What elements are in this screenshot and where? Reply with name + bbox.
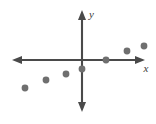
data-point (103, 57, 110, 64)
scatter-points-group (22, 43, 148, 92)
data-point (79, 66, 86, 73)
x-axis (12, 56, 145, 64)
x-axis-label: x (143, 62, 149, 74)
data-point (63, 71, 70, 78)
data-point (124, 48, 131, 55)
y-axis-top-arrowhead-icon (78, 10, 86, 20)
data-point (22, 85, 29, 92)
coordinate-plane-svg: y x (0, 0, 156, 124)
x-axis-left-arrowhead-icon (12, 56, 22, 64)
y-axis-label: y (88, 8, 94, 20)
scatter-plot-figure: y x (0, 0, 156, 124)
data-point (43, 77, 50, 84)
data-point (141, 43, 148, 50)
y-axis-bottom-arrowhead-icon (78, 102, 86, 112)
